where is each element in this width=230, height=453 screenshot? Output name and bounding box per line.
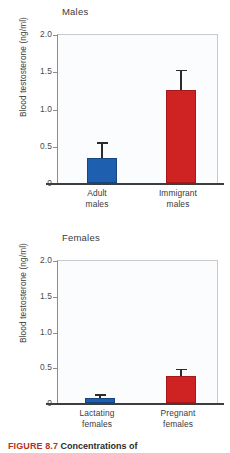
figure-number: FIGURE 8.7 [8,441,58,451]
y-tick-label-0-females: 0 [22,398,52,408]
y-tick-1-0-males [53,110,58,111]
y-tick-2-0-females [53,261,58,262]
chart-title-males: Males [62,6,88,17]
error-cap-immigrant-males [176,70,187,71]
chart-panel-males: Males Blood testosterone (ng/ml) 2.0 1.5… [0,0,230,225]
error-cap-pregnant-females [176,369,187,370]
y-tick-1-5-females [53,297,58,298]
y-tick-1-5-males [53,72,58,73]
y-tick-label-1-5-females: 1.5 [22,291,52,301]
x-tick-label-lactating-females: Lactating females [55,408,139,429]
error-bar-adult-males [101,144,102,159]
y-tick-2-0-males [53,35,58,36]
bar-pregnant-females [166,376,196,403]
error-cap-lactating-females [95,394,106,395]
figure-container: Males Blood testosterone (ng/ml) 2.0 1.5… [0,0,230,453]
y-tick-label-2-0-males: 2.0 [22,29,52,39]
y-tick-label-2-0-females: 2.0 [22,255,52,265]
y-tick-0-5-females [53,368,58,369]
error-bar-pregnant-females [180,370,181,376]
y-tick-label-0-males: 0 [22,178,52,188]
error-cap-adult-males [97,142,108,143]
x-tick-label-pregnant-females: Pregnant females [137,408,219,429]
x-axis-line-females [46,403,224,405]
figure-caption-text: Concentrations of [61,441,138,451]
y-tick-label-0-5-females: 0.5 [22,362,52,372]
figure-caption: FIGURE 8.7 Concentrations of [8,440,230,453]
x-tick-label-adult-males: Adult males [57,188,137,209]
bar-adult-males [87,158,117,183]
x-axis-line-males [46,183,224,185]
y-tick-0-5-males [53,147,58,148]
y-tick-label-0-5-males: 0.5 [22,141,52,151]
x-tick-label-immigrant-males: Immigrant males [137,188,219,209]
chart-title-females: Females [62,232,100,243]
y-tick-1-0-females [53,333,58,334]
y-tick-label-1-5-males: 1.5 [22,66,52,76]
plot-area-females [57,260,218,403]
y-tick-label-1-0-females: 1.0 [22,327,52,337]
chart-panel-females: Females Blood testosterone (ng/ml) 2.0 1… [0,228,230,433]
bar-immigrant-males [166,90,196,183]
plot-area-males [57,34,218,183]
y-tick-label-1-0-males: 1.0 [22,104,52,114]
error-bar-immigrant-males [180,71,181,90]
error-bar-lactating-females [99,396,100,398]
